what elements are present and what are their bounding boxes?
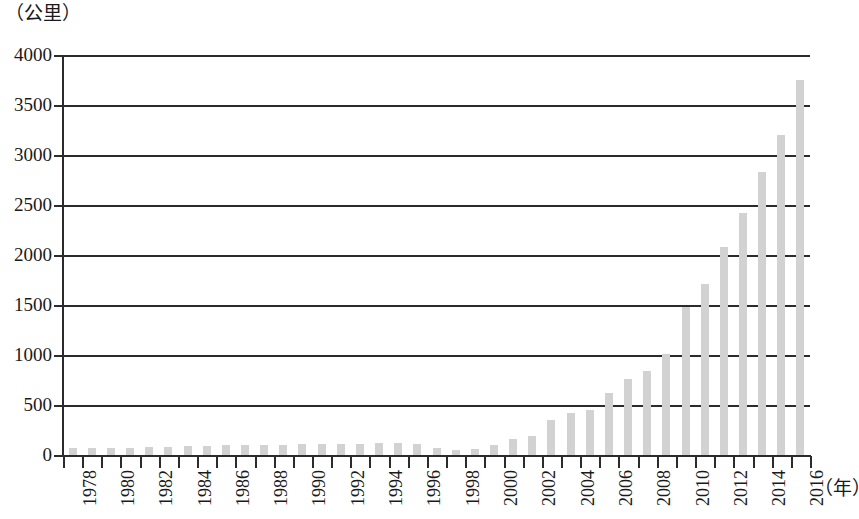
x-axis-tick-label: 1998 xyxy=(464,470,482,506)
x-axis-tick-label: 2012 xyxy=(732,470,750,506)
x-axis-tick-label: 1994 xyxy=(387,470,405,506)
bar-chart: （公里） 40003500300025002000150010005000 19… xyxy=(0,0,859,519)
x-axis-tick-label: 1996 xyxy=(425,470,443,506)
x-axis-unit-label: （年） xyxy=(814,478,859,500)
x-axis-tick-label: 1988 xyxy=(272,470,290,506)
x-axis-tick-label: 2004 xyxy=(579,470,597,506)
y-axis-tick xyxy=(54,205,63,207)
x-axis-tick-label: 1990 xyxy=(310,470,328,506)
y-axis-tick xyxy=(54,255,63,257)
y-axis-tick xyxy=(54,405,63,407)
x-axis-tick-label: 2002 xyxy=(540,470,558,506)
x-axis-tick-labels: 1978198019821984198619881990199219941996… xyxy=(0,0,859,519)
y-axis-tick xyxy=(54,155,63,157)
y-axis-tick xyxy=(54,455,63,457)
y-axis-tick xyxy=(54,355,63,357)
x-axis-tick-label: 2006 xyxy=(617,470,635,506)
x-axis-tick-label: 1986 xyxy=(234,470,252,506)
x-axis-tick-label: 1982 xyxy=(157,470,175,506)
x-axis-tick-label: 1992 xyxy=(349,470,367,506)
x-axis-tick-label: 2010 xyxy=(694,470,712,506)
y-axis-tick xyxy=(54,105,63,107)
x-axis-tick-label: 1980 xyxy=(119,470,137,506)
x-axis-tick-label: 1978 xyxy=(81,470,99,506)
x-axis-tick-label: 1984 xyxy=(196,470,214,506)
x-axis-tick-label: 2000 xyxy=(502,470,520,506)
x-axis-tick-label: 2014 xyxy=(770,470,788,506)
x-axis-tick-label: 2008 xyxy=(655,470,673,506)
y-axis-tick xyxy=(54,305,63,307)
y-axis-tick xyxy=(54,55,63,57)
